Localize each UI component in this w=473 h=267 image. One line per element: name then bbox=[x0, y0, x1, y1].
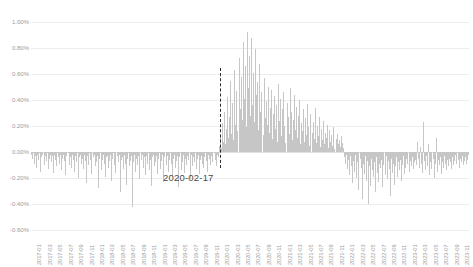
x-axis-tick-label: 2023-11 bbox=[465, 245, 471, 265]
bar bbox=[419, 152, 420, 168]
x-axis-tick-label: 2021-11 bbox=[340, 245, 346, 265]
bar bbox=[375, 152, 376, 192]
x-axis-tick-label: 2017-01 bbox=[37, 244, 43, 265]
bar bbox=[435, 152, 436, 164]
x-axis-tick-label: 2018-03 bbox=[110, 244, 116, 265]
bar bbox=[436, 138, 437, 152]
bar bbox=[212, 152, 213, 162]
x-axis-tick-label: 2018-01 bbox=[100, 244, 106, 265]
plot-area bbox=[31, 22, 469, 230]
bar bbox=[390, 152, 391, 196]
y-axis-tick-label: 0.00% bbox=[1, 149, 29, 155]
x-axis-tick-label: 2019-11 bbox=[215, 245, 221, 265]
x-axis-tick-label: 2020-05 bbox=[246, 244, 252, 265]
bar bbox=[86, 152, 87, 183]
x-axis-tick-label: 2022-03 bbox=[361, 244, 367, 265]
bar bbox=[218, 152, 219, 157]
bar bbox=[428, 144, 429, 152]
x-axis-tick-label: 2021-07 bbox=[319, 244, 325, 265]
bar bbox=[468, 152, 469, 155]
x-axis-tick-label: 2017-07 bbox=[69, 244, 75, 265]
bar bbox=[427, 152, 428, 166]
bar bbox=[56, 152, 57, 166]
y-axis-tick-label: 1.00% bbox=[1, 19, 29, 25]
bar-series bbox=[31, 22, 469, 230]
x-axis-tick-label: 2017-03 bbox=[48, 244, 54, 265]
x-axis-tick-label: 2022-01 bbox=[350, 244, 356, 265]
x-axis-tick-label: 2019-05 bbox=[183, 244, 189, 265]
bar bbox=[194, 152, 195, 162]
event-marker-line bbox=[220, 68, 221, 168]
x-axis-tick-label: 2023-01 bbox=[413, 244, 419, 265]
x-axis-tick-label: 2019-09 bbox=[204, 244, 210, 265]
bar bbox=[88, 152, 89, 165]
x-axis-tick-label: 2022-07 bbox=[382, 244, 388, 265]
x-axis-tick-label: 2023-03 bbox=[423, 244, 429, 265]
x-axis-tick-label: 2017-09 bbox=[79, 244, 85, 265]
x-axis-tick-label: 2023-07 bbox=[444, 244, 450, 265]
y-axis-tick-label: 0.80% bbox=[1, 45, 29, 51]
x-axis-tick-label: 2020-11 bbox=[277, 245, 283, 265]
x-axis-tick-label: 2021-09 bbox=[329, 244, 335, 265]
bar bbox=[46, 152, 47, 161]
bar bbox=[422, 152, 423, 173]
chart-container: 1.00%0.80%0.60%0.40%0.20%0.00%-0.20%-0.4… bbox=[0, 0, 473, 267]
bar bbox=[207, 152, 208, 172]
bar bbox=[53, 152, 54, 173]
x-axis-tick-label: 2017-11 bbox=[90, 245, 96, 265]
x-axis-tick-label: 2022-11 bbox=[402, 245, 408, 265]
x-axis-tick-label: 2021-03 bbox=[298, 244, 304, 265]
bar bbox=[354, 152, 355, 172]
x-axis-tick-label: 2020-03 bbox=[236, 244, 242, 265]
event-marker-label: 2020-02-17 bbox=[163, 172, 214, 183]
x-axis-tick-label: 2019-07 bbox=[194, 244, 200, 265]
y-axis-tick-label: -0.60% bbox=[1, 227, 29, 233]
y-axis-tick-label: -0.40% bbox=[1, 201, 29, 207]
x-axis-tick-label: 2022-09 bbox=[392, 244, 398, 265]
bar bbox=[416, 152, 417, 165]
bar bbox=[423, 122, 424, 152]
bar bbox=[76, 152, 77, 162]
bar bbox=[417, 142, 418, 152]
chart-title bbox=[0, 0, 473, 5]
y-axis-tick-label: 0.60% bbox=[1, 71, 29, 77]
x-axis-tick-label: 2018-07 bbox=[131, 244, 137, 265]
x-axis-tick-label: 2022-05 bbox=[371, 244, 377, 265]
x-axis-tick-label: 2021-01 bbox=[288, 244, 294, 265]
x-axis-tick-label: 2020-09 bbox=[267, 244, 273, 265]
x-axis-tick-label: 2020-07 bbox=[256, 244, 262, 265]
x-axis-tick-label: 2021-05 bbox=[309, 244, 315, 265]
y-axis-tick-label: 0.20% bbox=[1, 123, 29, 129]
x-axis-tick-label: 2018-09 bbox=[142, 244, 148, 265]
x-axis-tick-label: 2023-09 bbox=[455, 244, 461, 265]
x-axis-tick-label: 2023-05 bbox=[434, 244, 440, 265]
bar bbox=[333, 127, 334, 152]
x-axis-tick-label: 2019-03 bbox=[173, 244, 179, 265]
y-axis: 1.00%0.80%0.60%0.40%0.20%0.00%-0.20%-0.4… bbox=[0, 22, 29, 230]
x-axis-tick-label: 2019-01 bbox=[163, 244, 169, 265]
x-axis-tick-label: 2020-01 bbox=[225, 244, 231, 265]
x-axis-tick-label: 2018-11 bbox=[152, 245, 158, 265]
x-axis-tick-label: 2017-05 bbox=[58, 244, 64, 265]
y-axis-tick-label: -0.20% bbox=[1, 175, 29, 181]
x-axis-tick-label: 2018-05 bbox=[121, 244, 127, 265]
bar bbox=[147, 152, 148, 164]
x-axis: 2017-012017-032017-052017-072017-092017-… bbox=[31, 231, 469, 267]
y-axis-tick-label: 0.40% bbox=[1, 97, 29, 103]
